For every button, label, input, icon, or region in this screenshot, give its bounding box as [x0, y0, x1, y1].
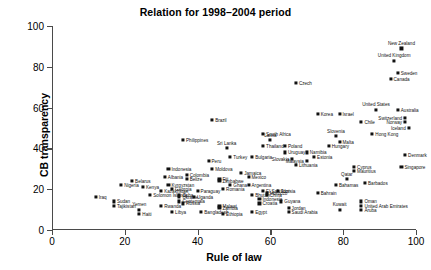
data-point — [360, 200, 363, 203]
data-point — [222, 188, 225, 191]
data-point-label: Turkey — [233, 154, 247, 159]
y-tick-label: 20 — [33, 184, 44, 195]
data-point-label: Bahrain — [321, 191, 337, 196]
data-point — [407, 126, 410, 129]
data-point-label: Paraguay — [201, 189, 221, 194]
data-point-label: Zimbabwe — [222, 179, 243, 184]
data-point-label: Israel — [343, 111, 354, 116]
data-point — [269, 139, 272, 142]
x-tick — [343, 230, 344, 235]
data-point-label: Guyana — [284, 199, 300, 204]
data-point-label: New Zealand — [388, 40, 415, 45]
data-point-label: Sweden — [401, 70, 418, 75]
data-point — [338, 112, 341, 115]
data-point — [178, 196, 181, 199]
data-point — [185, 177, 188, 180]
data-point-label: Qatar — [341, 171, 353, 176]
data-point-label: Egypt — [255, 209, 267, 214]
data-point — [316, 192, 319, 195]
y-tick — [47, 67, 52, 68]
data-point — [240, 171, 243, 174]
data-point — [160, 204, 163, 207]
data-point — [400, 47, 403, 50]
data-point-label: Nigeria — [124, 183, 139, 188]
data-point-label: Chile — [364, 119, 374, 124]
data-point — [112, 204, 115, 207]
data-point — [363, 182, 366, 185]
data-point-label: Argentina — [252, 183, 272, 188]
data-point — [120, 184, 123, 187]
data-point — [345, 177, 348, 180]
data-point — [396, 71, 399, 74]
y-tick — [47, 26, 52, 27]
data-point-label: Belize — [190, 177, 203, 182]
data-point — [371, 133, 374, 136]
data-point — [192, 196, 195, 199]
data-point — [112, 200, 115, 203]
data-point-label: Uruguay — [288, 150, 305, 155]
y-tick-label: 80 — [33, 61, 44, 72]
data-point-label: Denmark — [408, 152, 427, 157]
data-point — [138, 212, 141, 215]
data-point — [262, 145, 265, 148]
y-tick-label: 0 — [38, 225, 44, 236]
data-point-label: Saudi Arabia — [292, 209, 318, 214]
data-point — [258, 198, 261, 201]
data-point — [334, 184, 337, 187]
data-point-label: Aruba — [364, 207, 376, 212]
data-point — [167, 167, 170, 170]
data-point-label: Brazil — [215, 117, 227, 122]
x-axis-line — [52, 229, 416, 230]
data-point — [353, 165, 356, 168]
data-point — [360, 120, 363, 123]
data-point — [149, 194, 152, 197]
data-point-label: Hong Kong — [375, 132, 398, 137]
data-point-label: Czech — [299, 81, 312, 86]
data-point — [404, 116, 407, 119]
data-point-label: Iceland — [391, 126, 406, 131]
data-point — [283, 145, 286, 148]
data-point — [185, 173, 188, 176]
scatter-chart: Relation for 1998–2004 period CB transpa… — [0, 0, 431, 270]
data-point-label: Philippines — [186, 138, 208, 143]
data-point-label: Norway — [387, 119, 403, 124]
data-point-label: Bulgaria — [255, 154, 272, 159]
data-point — [360, 204, 363, 207]
data-point-label: Kuwait — [333, 202, 347, 207]
y-tick-label: 60 — [33, 102, 44, 113]
data-point — [400, 165, 403, 168]
data-point — [229, 155, 232, 158]
data-point — [211, 118, 214, 121]
data-point — [389, 77, 392, 80]
data-point — [167, 184, 170, 187]
data-point-label: Moldova — [215, 166, 232, 171]
data-point-label: Zambia — [222, 205, 237, 210]
data-point-label: United Kingdom — [378, 53, 411, 58]
data-point — [251, 194, 254, 197]
data-point — [181, 139, 184, 142]
data-point — [258, 202, 261, 205]
data-point — [305, 151, 308, 154]
data-point-label: Yemen — [132, 202, 146, 207]
data-point-label: Croatia — [262, 201, 277, 206]
x-tick — [52, 230, 53, 235]
data-point-label: Iraq — [99, 195, 107, 200]
data-point — [338, 208, 341, 211]
data-point-label: Singapore — [404, 164, 425, 169]
x-tick-label: 20 — [119, 236, 130, 247]
data-point-label: Poland — [288, 144, 302, 149]
chart-title: Relation for 1998–2004 period — [0, 6, 431, 18]
x-tick — [270, 230, 271, 235]
x-tick-label: 80 — [338, 236, 349, 247]
x-tick-label: 40 — [192, 236, 203, 247]
data-point-label: Thailand — [266, 144, 284, 149]
x-tick-label: 100 — [408, 236, 425, 247]
data-point — [138, 208, 141, 211]
data-point-label: Libya — [175, 209, 186, 214]
data-point — [251, 155, 254, 158]
x-tick — [416, 230, 417, 235]
data-point — [316, 112, 319, 115]
data-point-label: Barbados — [368, 181, 388, 186]
data-point — [163, 175, 166, 178]
data-point — [247, 184, 250, 187]
